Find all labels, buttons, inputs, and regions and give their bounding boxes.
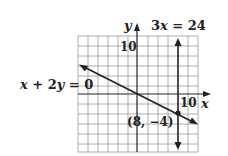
label-x-axis: x (200, 96, 209, 111)
label-y-axis: y (123, 18, 133, 33)
label-y-tick: 10 (120, 40, 137, 54)
label-line1: x + 2y = 0 (19, 77, 93, 92)
arrow-left-icon (79, 65, 88, 72)
coordinate-graph: x + 2y = 0 3x = 24 y x 10 10 (8, −4) (0, 0, 228, 156)
y-axis-arrow-icon (134, 23, 140, 31)
intersection-point (175, 110, 180, 115)
label-line2: 3x = 24 (151, 18, 206, 33)
arrow-up-icon (175, 38, 182, 46)
arrow-down-icon (175, 142, 182, 150)
label-x-tick: 10 (180, 96, 197, 110)
arrow-right-icon (189, 118, 198, 125)
label-intersection: (8, −4) (127, 115, 173, 129)
